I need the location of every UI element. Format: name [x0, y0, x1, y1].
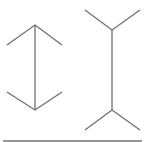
figure-arrowheads [7, 25, 62, 110]
right-top-fins [85, 10, 140, 30]
figure-fins [85, 10, 140, 130]
muller-lyer-diagram [0, 0, 151, 142]
right-bottom-fins [85, 110, 140, 130]
